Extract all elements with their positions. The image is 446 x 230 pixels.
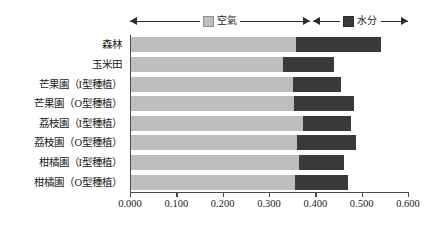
span-arrow-water-left-line <box>313 21 340 22</box>
bar-segment-water <box>296 37 381 52</box>
x-tick <box>408 192 409 197</box>
bar-segment-air <box>131 116 303 131</box>
x-tick <box>130 192 131 197</box>
legend-swatch-water-icon <box>343 16 354 27</box>
legend-label-water: 水分 <box>357 16 377 26</box>
bar-row <box>131 94 409 114</box>
legend-label-air: 空氣 <box>217 16 237 26</box>
category-axis-labels: 森林玉米田芒果園（I型種植）芒果園（O型種植）荔枝園（I型種植）荔枝園（O型種植… <box>0 35 126 192</box>
stacked-bar <box>131 155 409 170</box>
legend-swatch-air-icon <box>203 16 214 27</box>
bar-row <box>131 133 409 153</box>
category-label: 芒果園（I型種植） <box>0 74 126 94</box>
bar-segment-air <box>131 155 299 170</box>
arrow-left-icon <box>313 17 320 25</box>
arrow-right-icon <box>401 17 408 25</box>
legend-entry-water: 水分 <box>340 16 380 27</box>
bar-segment-air <box>131 175 295 190</box>
x-axis-tick-labels: 0.0000.1000.2000.3000.4000.5000.600 <box>130 198 408 214</box>
bar-row <box>131 55 409 75</box>
x-tick-label: 0.200 <box>211 198 235 210</box>
bar-segment-air <box>131 77 293 92</box>
bar-row <box>131 74 409 94</box>
category-label: 芒果園（O型種植） <box>0 94 126 114</box>
plot-area <box>130 35 409 192</box>
bar-segment-air <box>131 57 283 72</box>
legend-entry-air: 空氣 <box>200 16 240 27</box>
span-arrow-water-right-line <box>381 21 408 22</box>
x-tick-label: 0.500 <box>350 198 374 210</box>
x-tick-label: 0.300 <box>257 198 281 210</box>
bar-row <box>131 35 409 55</box>
bar-segment-air <box>131 96 294 111</box>
x-axis-ticks <box>130 192 408 197</box>
stacked-bar <box>131 96 409 111</box>
bar-row <box>131 172 409 192</box>
chart-legend: 空氣 水分 <box>130 10 408 32</box>
span-arrow-air-right-line <box>240 21 310 22</box>
x-tick-label: 0.400 <box>304 198 328 210</box>
bar-segment-water <box>293 77 341 92</box>
span-arrow-air-left-line <box>130 21 200 22</box>
category-label: 柑橘園（O型種植） <box>0 172 126 192</box>
x-tick <box>362 192 363 197</box>
x-tick <box>176 192 177 197</box>
bar-segment-water <box>297 135 356 150</box>
bar-segment-air <box>131 135 297 150</box>
category-label: 荔枝園（I型種植） <box>0 114 126 134</box>
legend-span-air: 空氣 <box>130 10 310 32</box>
stacked-bar <box>131 57 409 72</box>
category-label: 玉米田 <box>0 55 126 75</box>
stacked-bar <box>131 175 409 190</box>
category-label: 柑橘園（I型種植） <box>0 153 126 173</box>
legend-span-water: 水分 <box>313 10 408 32</box>
x-tick <box>223 192 224 197</box>
arrow-left-icon <box>130 17 137 25</box>
stacked-bar <box>131 116 409 131</box>
stacked-bar-chart: 空氣 水分 森林玉米田芒果園（I型種植）芒果園（O型種植）荔枝園（I型種植）荔枝… <box>0 0 446 230</box>
bar-row <box>131 153 409 173</box>
stacked-bar <box>131 135 409 150</box>
x-tick <box>315 192 316 197</box>
bar-segment-air <box>131 37 296 52</box>
stacked-bar <box>131 77 409 92</box>
bar-segment-water <box>295 175 348 190</box>
x-tick <box>269 192 270 197</box>
bar-segment-water <box>294 96 354 111</box>
x-tick-label: 0.100 <box>165 198 189 210</box>
bar-row <box>131 114 409 134</box>
x-tick-label: 0.000 <box>118 198 142 210</box>
x-tick-label: 0.600 <box>396 198 420 210</box>
bar-segment-water <box>283 57 334 72</box>
stacked-bar <box>131 37 409 52</box>
bar-segment-water <box>299 155 344 170</box>
category-label: 森林 <box>0 35 126 55</box>
category-label: 荔枝園（O型種植） <box>0 133 126 153</box>
bar-segment-water <box>303 116 351 131</box>
arrow-right-icon <box>303 17 310 25</box>
